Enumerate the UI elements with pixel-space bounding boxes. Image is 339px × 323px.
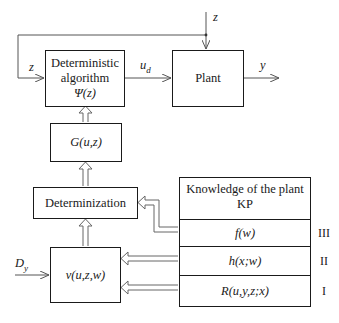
knowledge-table: Knowledge of the plant KP f(w) h(x;w) R(…: [179, 177, 311, 307]
det-line3: Ψ(z): [74, 86, 96, 101]
det-line1: Deterministic: [51, 56, 119, 71]
level-II: II: [320, 254, 328, 269]
y-output-label: y: [260, 58, 266, 73]
knowledge-header-line1: Knowledge of the plant: [180, 182, 310, 197]
determinization-box: Determinization: [33, 187, 138, 219]
v-box: v(u,z,w): [50, 247, 121, 303]
knowledge-row-f: f(w): [180, 219, 310, 247]
knowledge-row-h-label: h(x;w): [229, 254, 262, 269]
knowledge-header: Knowledge of the plant KP: [180, 182, 310, 212]
dy-sub: y: [24, 263, 28, 273]
knowledge-row-r: R(u,y,z;x): [180, 275, 310, 307]
plant-box: Plant: [172, 50, 244, 107]
g-box: G(u,z): [50, 123, 122, 162]
level-III: III: [318, 226, 330, 241]
knowledge-header-line2: KP: [180, 197, 310, 212]
dy-main: D: [15, 256, 24, 270]
ud-sub: d: [146, 65, 151, 75]
plant-label: Plant: [195, 71, 221, 86]
knowledge-row-h: h(x;w): [180, 246, 310, 276]
level-I: I: [322, 284, 326, 299]
determinization-label: Determinization: [45, 196, 126, 211]
v-label: v(u,z,w): [66, 268, 106, 283]
z-disturbance-label: z: [213, 10, 218, 25]
g-label: G(u,z): [70, 135, 102, 150]
det-line2: algorithm: [61, 71, 110, 86]
knowledge-row-f-label: f(w): [235, 226, 255, 241]
z-feedback-label: z: [29, 60, 34, 75]
knowledge-row-r-label: R(u,y,z;x): [221, 284, 269, 299]
dy-label: Dy: [15, 256, 28, 273]
ud-label: ud: [140, 58, 151, 75]
deterministic-algorithm-box: Deterministic algorithm Ψ(z): [45, 50, 125, 107]
